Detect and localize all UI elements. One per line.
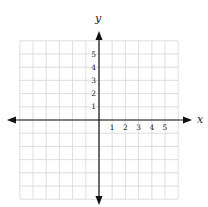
- grid-svg: x y 12345 12345: [0, 0, 208, 207]
- y-tick-label: 1: [91, 102, 96, 111]
- x-tick-label: 4: [149, 123, 154, 132]
- y-tick-label: 4: [91, 63, 96, 72]
- x-tick-label: 3: [136, 123, 141, 132]
- y-tick-label: 2: [91, 89, 96, 98]
- x-tick-labels: 12345: [110, 123, 168, 132]
- coordinate-plane: x y 12345 12345: [0, 0, 208, 207]
- x-axis-label: x: [197, 113, 204, 126]
- y-tick-label: 3: [91, 76, 96, 85]
- y-axis-label: y: [94, 12, 102, 25]
- x-tick-label: 2: [123, 123, 128, 132]
- y-axis-up-arrow-icon: [96, 31, 103, 40]
- x-axis-right-arrow-icon: [183, 117, 192, 124]
- x-tick-label: 5: [163, 123, 168, 132]
- x-tick-label: 1: [110, 123, 115, 132]
- x-axis-left-arrow-icon: [7, 117, 16, 124]
- y-axis-down-arrow-icon: [96, 196, 103, 205]
- y-tick-label: 5: [91, 50, 96, 59]
- y-tick-labels: 12345: [91, 50, 96, 112]
